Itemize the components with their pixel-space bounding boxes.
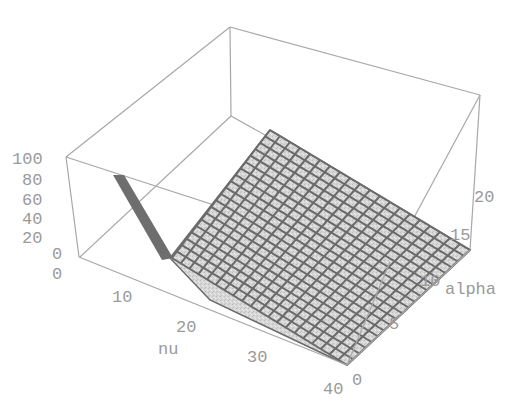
alpha-tick: 10	[420, 273, 440, 290]
z-tick: 100	[12, 151, 43, 168]
alpha-tick: 5	[389, 316, 399, 333]
surface-mesh	[170, 130, 470, 365]
z-origin-label: 0	[52, 266, 62, 283]
nu-tick: 30	[247, 349, 267, 366]
z-tick: 0	[52, 246, 62, 263]
z-tick: 80	[22, 172, 42, 189]
nu-tick: 40	[323, 381, 343, 398]
z-tick: 40	[22, 211, 42, 228]
z-tick: 20	[22, 230, 42, 247]
nu-axis-label: nu	[158, 341, 178, 358]
alpha-tick: 0	[352, 372, 362, 389]
alpha-tick: 15	[450, 227, 470, 244]
nu-tick: 20	[176, 319, 196, 336]
z-tick: 60	[22, 192, 42, 209]
alpha-tick: 20	[474, 189, 494, 206]
alpha-axis-label: alpha	[445, 281, 496, 298]
nu-tick: 10	[112, 289, 132, 306]
